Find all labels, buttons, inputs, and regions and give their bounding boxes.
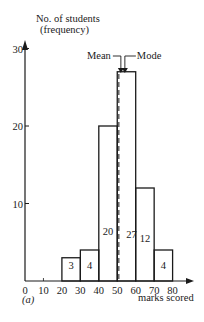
y-tick-label: 10 xyxy=(13,199,24,210)
histogram-bars: 342027124 xyxy=(62,72,173,281)
y-tick-label: 20 xyxy=(13,121,24,132)
mode-leader xyxy=(125,56,136,70)
mean-leader xyxy=(113,56,121,70)
histogram-chart: No. of students (frequency) 342027124 Me… xyxy=(0,0,204,322)
panel-label: (a) xyxy=(22,294,35,306)
x-tick-label: 30 xyxy=(75,285,86,296)
x-tick-label: 40 xyxy=(94,285,105,296)
bar-value-label: 4 xyxy=(87,260,93,271)
y-axis-title-line2: (frequency) xyxy=(40,24,89,36)
y-axis-ticks: 102030 xyxy=(13,44,30,210)
y-axis-title: No. of students (frequency) xyxy=(36,13,100,36)
x-axis-arrow-icon xyxy=(186,278,194,284)
x-tick-label: 20 xyxy=(57,285,68,296)
bar-value-label: 12 xyxy=(140,233,151,244)
y-axis-title-line1: No. of students xyxy=(36,13,100,24)
x-tick-label: 10 xyxy=(38,285,49,296)
bar-value-label: 4 xyxy=(161,260,167,271)
bar-value-label: 20 xyxy=(103,226,114,237)
histogram-bar xyxy=(99,126,117,281)
y-tick-label: 30 xyxy=(13,44,24,55)
mean-label: Mean xyxy=(87,50,112,61)
bar-value-label: 3 xyxy=(69,260,74,271)
x-axis-title: marks scored xyxy=(138,292,194,303)
mode-label: Mode xyxy=(137,50,162,61)
axes xyxy=(22,40,194,284)
histogram-bar xyxy=(117,72,135,281)
x-tick-label: 50 xyxy=(112,285,123,296)
